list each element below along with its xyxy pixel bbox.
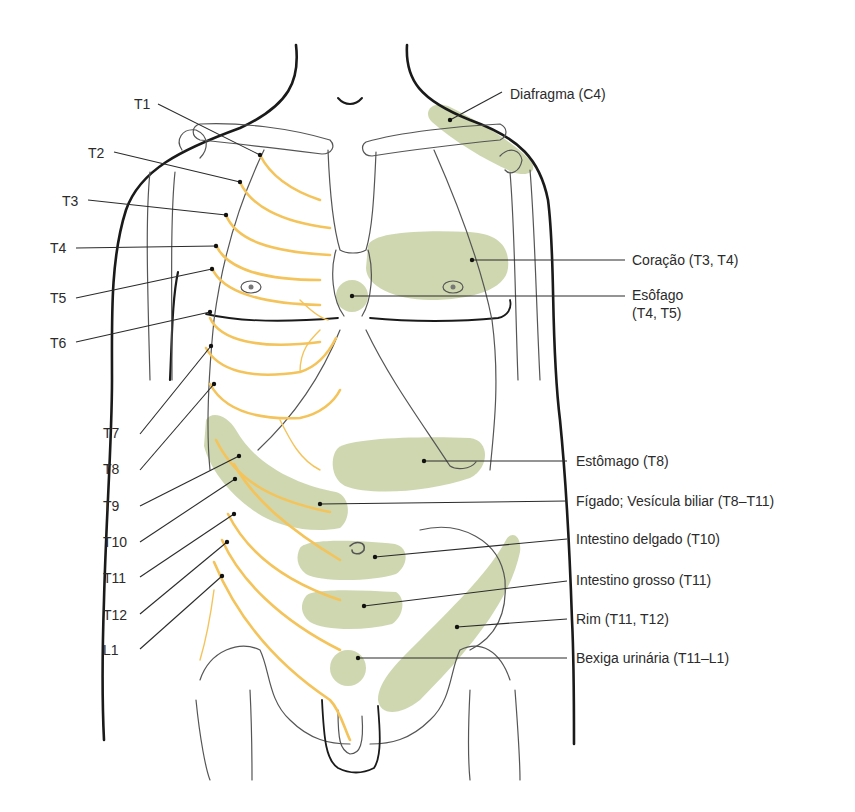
zone-intestino-delgado — [298, 541, 406, 580]
label-t5: T5 — [50, 290, 67, 306]
referred-pain-diagram: T1 T2 T3 T4 T5 T6 T7 T8 T9 T10 T11 T12 L… — [0, 0, 855, 812]
zone-coracao — [366, 231, 508, 300]
label-diafragma: Diafragma (C4) — [510, 86, 606, 102]
label-t8: T8 — [103, 461, 120, 477]
label-rim: Rim (T11, T12) — [576, 611, 669, 627]
dermatome-labels: T1 T2 T3 T4 T5 T6 T7 T8 T9 T10 T11 T12 L… — [50, 96, 262, 658]
zone-estomago — [333, 437, 485, 491]
zone-intestino-grosso — [302, 590, 402, 629]
organ-labels: Diafragma (C4) Coração (T3, T4) Esôfago … — [318, 86, 774, 666]
label-t10: T10 — [103, 534, 127, 550]
label-t6: T6 — [50, 335, 67, 351]
label-t11: T11 — [103, 570, 126, 586]
label-t2: T2 — [88, 145, 105, 161]
referred-zones — [204, 104, 533, 712]
label-t12: T12 — [103, 607, 127, 623]
zone-bexiga — [330, 650, 366, 686]
label-estomago: Estômago (T8) — [576, 453, 669, 469]
label-bexiga: Bexiga urinária (T11–L1) — [576, 650, 729, 666]
label-esofago-1: Esôfago — [632, 287, 684, 303]
label-esofago-2: (T4, T5) — [632, 305, 682, 321]
label-t9: T9 — [103, 498, 120, 514]
label-t7: T7 — [103, 425, 120, 441]
label-l1: L1 — [103, 642, 119, 658]
label-intestino-delgado: Intestino delgado (T10) — [576, 531, 720, 547]
label-coracao: Coração (T3, T4) — [632, 252, 738, 268]
label-figado: Fígado; Vesícula biliar (T8–T11) — [576, 493, 774, 509]
label-t1: T1 — [134, 96, 151, 112]
label-intestino-grosso: Intestino grosso (T11) — [576, 572, 711, 588]
label-t4: T4 — [50, 240, 67, 256]
zone-diafragma — [428, 104, 533, 174]
label-t3: T3 — [62, 193, 79, 209]
